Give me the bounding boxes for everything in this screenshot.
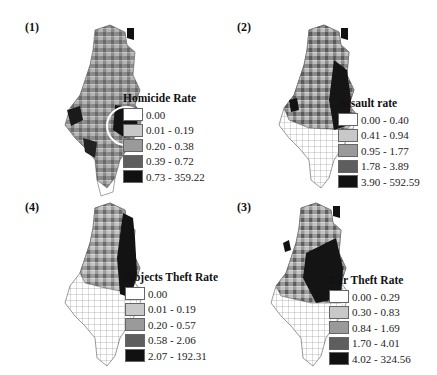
legend-label: 0.84 - 1.69 — [352, 322, 400, 334]
legend-car-theft: Car Theft Rate 0.00 - 0.29 0.30 - 0.83 0… — [329, 274, 411, 367]
legend-item: 0.39 - 0.72 — [123, 154, 205, 170]
legend-label: 0.00 — [146, 109, 165, 121]
panel-car-theft: (3) Car Theft Rate 0.00 - 0.29 0.30 - 0.… — [219, 188, 437, 375]
legend-swatch — [125, 303, 145, 316]
legend-label: 0.58 - 2.06 — [148, 334, 196, 346]
legend-label: 0.41 - 0.94 — [361, 129, 409, 141]
legend-label: 0.00 - 0.29 — [352, 291, 400, 303]
legend-label: 0.20 - 0.57 — [148, 319, 196, 331]
legend-swatch — [338, 129, 358, 142]
legend-swatch — [338, 175, 358, 188]
legend-label: 4.02 - 324.56 — [352, 353, 411, 365]
legend-swatch — [329, 306, 349, 319]
legend-label: 1.70 - 4.01 — [352, 337, 400, 349]
legend-item: 1.78 - 3.89 — [338, 159, 420, 175]
legend-label: 0.73 - 359.22 — [146, 171, 205, 183]
legend-swatch — [125, 287, 145, 300]
legend-swatch — [329, 337, 349, 350]
legend-item: 0.00 — [123, 107, 205, 123]
legend-item: 0.01 - 0.19 — [123, 123, 205, 139]
legend-swatch — [123, 155, 143, 168]
legend-item: 0.84 - 1.69 — [329, 320, 411, 336]
legend-swatch — [125, 334, 145, 347]
legend-item: 0.00 - 0.40 — [338, 112, 420, 128]
legend-swatch — [338, 113, 358, 126]
legend-label: 0.20 - 0.38 — [146, 140, 194, 152]
legend-item: 1.70 - 4.01 — [329, 336, 411, 352]
legend-swatch — [123, 139, 143, 152]
legend-label: 0.00 - 0.40 — [361, 114, 409, 126]
legend-item: 0.20 - 0.57 — [125, 317, 218, 333]
legend-label: 0.30 - 0.83 — [352, 306, 400, 318]
legend-swatch — [125, 318, 145, 331]
legend-label: 0.39 - 0.72 — [146, 155, 194, 167]
legend-label: 2.07 - 192.31 — [148, 350, 207, 362]
legend-label: 0.95 - 1.77 — [361, 145, 409, 157]
legend-title: Homicide Rate — [123, 92, 205, 104]
legend-title: Objects Theft Rate — [125, 271, 218, 283]
legend-label: 0.01 - 0.19 — [148, 303, 196, 315]
panel-assault: (2) Assault rate 0.00 - 0.40 0.41 - 0.94… — [219, 0, 437, 187]
legend-item: 2.07 - 192.31 — [125, 348, 218, 364]
legend-swatch — [329, 290, 349, 303]
legend-swatch — [123, 170, 143, 183]
legend-label: 1.78 - 3.89 — [361, 160, 409, 172]
legend-item: 0.95 - 1.77 — [338, 143, 420, 159]
legend-swatch — [123, 108, 143, 121]
legend-swatch — [125, 349, 145, 362]
legend-item: 0.30 - 0.83 — [329, 305, 411, 321]
legend-item: 4.02 - 324.56 — [329, 351, 411, 367]
legend-assault: Assault rate 0.00 - 0.40 0.41 - 0.94 0.9… — [338, 97, 420, 190]
legend-item: 0.73 - 359.22 — [123, 169, 205, 185]
legend-swatch — [123, 124, 143, 137]
legend-item: 0.01 - 0.19 — [125, 302, 218, 318]
panel-homicide: (1) Homicide Rate 0.00 0.01 - 0.19 0.20 … — [0, 0, 218, 187]
legend-objects-theft: Objects Theft Rate 0.00 0.01 - 0.19 0.20… — [125, 271, 218, 364]
legend-label: 3.90 - 592.59 — [361, 176, 420, 188]
legend-swatch — [329, 321, 349, 334]
legend-title: Assault rate — [338, 97, 420, 109]
legend-label: 0.00 — [148, 288, 167, 300]
panel-objects-theft: (4) Objects Theft Rate 0.00 0.01 - 0.19 … — [0, 188, 218, 375]
legend-swatch — [338, 144, 358, 157]
legend-item: 0.58 - 2.06 — [125, 333, 218, 349]
legend-label: 0.01 - 0.19 — [146, 124, 194, 136]
legend-swatch — [329, 352, 349, 365]
legend-title: Car Theft Rate — [329, 274, 411, 286]
legend-homicide: Homicide Rate 0.00 0.01 - 0.19 0.20 - 0.… — [123, 92, 205, 185]
legend-item: 0.00 — [125, 286, 218, 302]
legend-item: 0.41 - 0.94 — [338, 128, 420, 144]
legend-item: 0.00 - 0.29 — [329, 289, 411, 305]
legend-item: 0.20 - 0.38 — [123, 138, 205, 154]
legend-swatch — [338, 160, 358, 173]
